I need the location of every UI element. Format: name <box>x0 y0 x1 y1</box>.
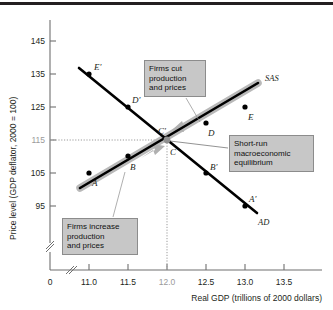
x-tick-12-5: 12.5 <box>198 277 215 287</box>
leader-line-equilibrium <box>170 141 228 148</box>
y-axis-title: Price level (GDP deflator, 2000 = 100) <box>8 97 18 240</box>
data-point-A <box>86 170 91 175</box>
y-tick-145: 145 <box>31 36 45 46</box>
x-axis-ticks <box>89 264 284 270</box>
label-point-B: B <box>130 162 136 172</box>
figure-container: 145 135 125 115 105 95 0 11.0 11.5 12.0 … <box>0 0 333 310</box>
data-point-E <box>242 104 247 109</box>
x-axis-title: Real GDP (trillions of 2000 dollars) <box>191 293 322 303</box>
callout-firms-cut: Firms cut production and prices <box>144 60 206 97</box>
label-point-A: A <box>91 178 98 188</box>
label-point-E-prime: E' <box>93 62 102 72</box>
callout-equilibrium: Short-run macroeconomic equilibrium <box>229 135 314 172</box>
label-point-E: E <box>247 112 254 122</box>
x-tick-12-0: 12.0 <box>159 277 176 287</box>
x-tick-13-5: 13.5 <box>276 277 293 287</box>
label-sas-curve: SAS <box>265 73 279 83</box>
label-point-D-prime: D' <box>131 95 141 105</box>
label-point-C: C <box>170 147 177 157</box>
equilibrium-point <box>164 137 171 144</box>
x-tick-13-0: 13.0 <box>237 277 254 287</box>
label-point-D: D <box>207 128 215 138</box>
data-point-B-prime <box>203 170 208 175</box>
leader-line-increase <box>113 172 125 217</box>
data-point-B <box>125 153 130 158</box>
data-point-A-prime <box>242 203 247 208</box>
y-tick-125: 125 <box>31 102 45 112</box>
y-tick-135: 135 <box>31 69 45 79</box>
y-tick-105: 105 <box>31 168 45 178</box>
label-point-A-prime: A' <box>248 194 257 204</box>
y-axis-ticks <box>50 41 56 206</box>
label-point-C-prime: C' <box>158 126 167 136</box>
x-tick-0: 0 <box>48 277 53 287</box>
x-tick-11-0: 11.0 <box>81 277 97 287</box>
data-point-E-prime <box>86 71 91 76</box>
data-point-D-prime <box>125 104 130 109</box>
x-tick-11-5: 11.5 <box>120 277 136 287</box>
y-tick-115: 115 <box>31 135 45 145</box>
label-point-B-prime: B' <box>210 162 218 172</box>
label-ad-curve: AD <box>257 217 270 227</box>
y-tick-95: 95 <box>36 201 46 211</box>
callout-firms-increase: Firms increase production and prices <box>62 218 138 255</box>
data-point-D <box>203 120 208 125</box>
